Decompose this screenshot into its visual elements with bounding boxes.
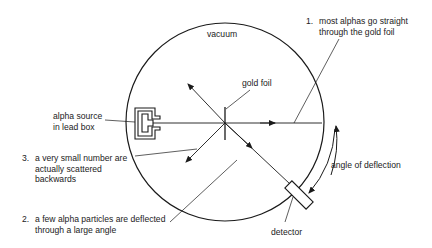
- backscatter-beam: [186, 123, 225, 162]
- detector-label: detector: [271, 227, 302, 238]
- angle-of-deflection-label: angle of deflection: [331, 160, 401, 171]
- observation-2: 2.a few alpha particles are deflected th…: [22, 214, 165, 235]
- observation-1: 1.most alphas go straight through the go…: [306, 16, 408, 37]
- leader-observation-3: [135, 149, 197, 156]
- leader-gold-foil: [226, 90, 250, 109]
- leader-alpha-source: [105, 120, 135, 122]
- vacuum-label: vacuum: [207, 29, 237, 40]
- alpha-source-label: alpha source in lead box: [53, 111, 102, 132]
- alpha-source-icon: [135, 108, 160, 139]
- observation-3: 3.a very small number are actually scatt…: [22, 153, 127, 185]
- leader-detector: [285, 197, 293, 222]
- deflected-beam-upper: [188, 84, 225, 123]
- gold-foil-label: gold foil: [242, 78, 272, 89]
- leader-observation-1: [294, 39, 339, 123]
- detector-icon: [285, 181, 313, 209]
- leader-observation-2: [170, 160, 237, 222]
